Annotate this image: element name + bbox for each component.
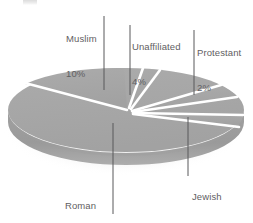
- pie-label-muslim-value: 10%: [66, 68, 97, 80]
- pie-label-unaffiliated[interactable]: Unaffiliated 4%: [132, 18, 181, 110]
- pie-chart-figure: Muslim 10% Unaffiliated 4% Protestant 2%…: [0, 0, 253, 223]
- pie-label-unaffiliated-value: 4%: [132, 76, 181, 88]
- pie-label-unaffiliated-name: Unaffiliated: [132, 41, 181, 53]
- pie-label-protestant-name: Protestant: [197, 47, 241, 59]
- pie-label-muslim-name: Muslim: [66, 33, 97, 45]
- pie-label-roman-catholic[interactable]: Roman Catholic 83%: [65, 177, 100, 223]
- pie-label-jewish[interactable]: Jewish 1%: [192, 168, 222, 223]
- pie-label-muslim[interactable]: Muslim 10%: [66, 10, 97, 102]
- pie-label-jewish-name: Jewish: [192, 191, 222, 203]
- pie-label-protestant[interactable]: Protestant 2%: [197, 24, 241, 116]
- pie-label-protestant-value: 2%: [197, 82, 241, 94]
- pie-label-roman-catholic-name1: Roman: [65, 200, 100, 212]
